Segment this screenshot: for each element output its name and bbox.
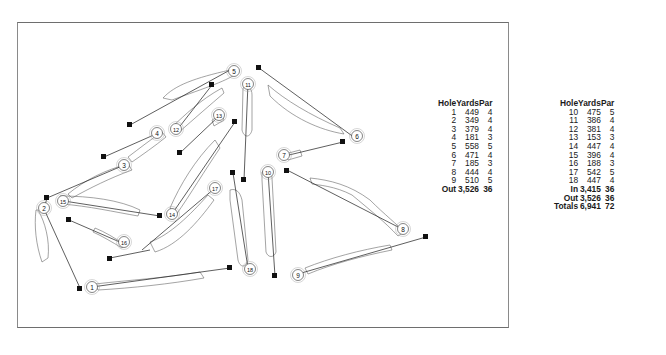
fairway-1 [95,272,204,290]
fairway-8 [310,178,404,236]
table-row: 113864 [554,116,614,125]
svg-text:16: 16 [121,240,127,246]
fairway-5 [163,70,238,100]
green-15: 15 [56,194,71,209]
hole-line-7 [289,142,343,155]
green-2: 2 [37,201,52,216]
hole-line-8 [287,170,400,228]
green-7: 7 [277,148,292,163]
green-18: 18 [243,262,258,277]
svg-text:12: 12 [173,127,179,133]
hole-line-2 [44,209,80,288]
svg-text:2: 2 [42,205,46,212]
fairway-2 [35,210,48,262]
svg-text:6: 6 [355,133,359,140]
total-row-out: Out3,52636 [438,185,493,194]
total-label: Out [438,185,456,194]
svg-text:3: 3 [122,162,126,169]
hole-line-18 [233,173,248,268]
fairway-6 [268,85,344,134]
svg-text:11: 11 [245,82,251,88]
hole-line-10 [268,172,275,276]
fairway-17 [150,195,214,252]
hole-line-17 [142,188,215,250]
table-row: 153964 [554,151,614,160]
hole-line-6 [259,68,355,138]
green-6: 6 [350,129,365,144]
green-9: 9 [291,268,306,283]
table-row: 104755 [554,108,614,117]
total-par: 72 [601,202,615,211]
svg-text:15: 15 [60,199,66,205]
hole-line-15 [64,201,160,216]
hole-line-9 [298,237,426,274]
table-header: Hole Yards Par [554,99,614,108]
table-row: 144474 [554,142,614,151]
total-yards: 6,941 [578,202,601,211]
svg-text:7: 7 [282,152,286,159]
total-yards: 3,526 [456,185,479,194]
table-row: 175425 [554,168,614,177]
green-1: 1 [85,280,100,295]
hole-line-13 [180,116,219,153]
hole-line-16 [69,220,122,243]
svg-text:14: 14 [169,212,175,218]
green-3: 3 [117,158,132,173]
table-row: 123814 [554,125,614,134]
hole-line-17b [110,250,150,258]
green-4: 4 [150,126,165,141]
green-8: 8 [396,222,411,237]
svg-text:8: 8 [401,226,405,233]
svg-text:4: 4 [155,130,159,137]
hole-line-4 [104,134,156,157]
green-12: 12 [169,122,184,137]
green-10: 10 [261,165,276,180]
total-row-grand: Totals6,94172 [554,202,614,211]
green-17: 17 [208,181,223,196]
svg-text:10: 10 [265,170,271,176]
tee-markers [44,65,428,291]
green-16: 16 [117,235,132,250]
fairway-18 [230,189,248,266]
green-5: 5 [227,64,242,79]
hole-line-3 [47,166,122,198]
fairway-15 [60,196,140,216]
green-14: 14 [165,207,180,222]
svg-text:18: 18 [247,267,253,273]
back-nine-table: Hole Yards Par 104755 113864 123814 1315… [554,99,614,211]
front-nine-table: Hole Yards Par 14494 23494 33794 41813 5… [438,99,493,194]
svg-text:1: 1 [90,284,94,291]
table-row: 161883 [554,159,614,168]
table-row: 131533 [554,133,614,142]
total-label: Totals [554,202,578,211]
hole-line-11 [244,83,248,180]
green-13: 13 [212,108,227,123]
svg-text:5: 5 [232,68,236,75]
total-par: 36 [479,185,493,194]
svg-text:13: 13 [216,113,222,119]
svg-text:9: 9 [296,272,300,279]
green-11: 11 [241,77,256,92]
svg-text:17: 17 [212,186,218,192]
